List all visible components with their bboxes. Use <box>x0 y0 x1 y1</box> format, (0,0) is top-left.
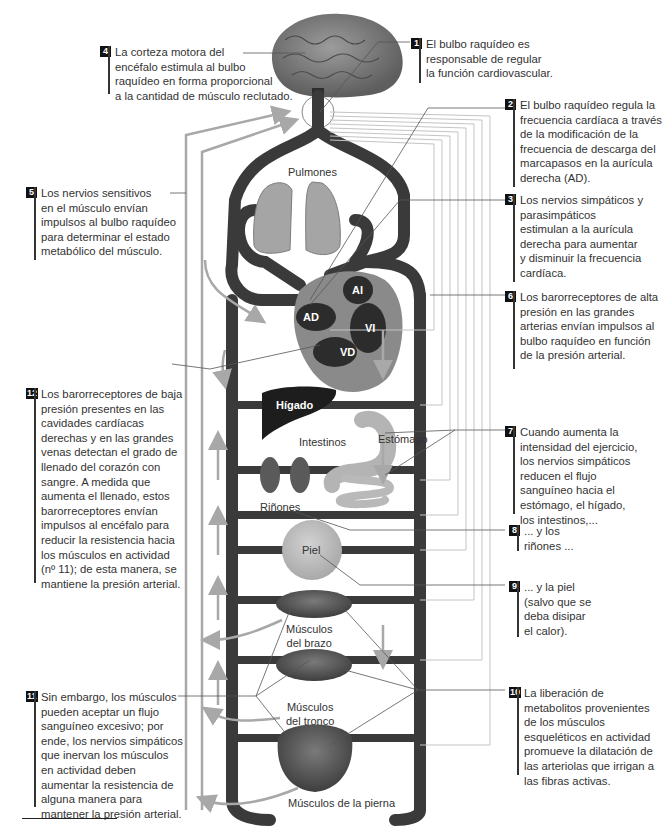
callout-text: ... y los riñones ... <box>524 524 574 553</box>
kidneys-label: Riñones <box>260 500 300 514</box>
callout-text: Los nervios simpáticos y parasimpáticos … <box>520 193 643 281</box>
callout-bar <box>517 581 519 637</box>
callout-8: 8 ... y los riñones ... <box>509 524 609 556</box>
heart-la-label: AI <box>352 284 363 296</box>
callout-3: 3 Los nervios simpáticos y parasimpático… <box>505 193 665 283</box>
callout-text: ... y la piel (salvo que se deba disipar… <box>524 580 591 638</box>
footnote-rule <box>22 818 117 819</box>
callout-12: 12 Los barorreceptores de baja presión p… <box>26 387 201 587</box>
callout-bar <box>517 525 519 551</box>
liver <box>262 387 336 440</box>
callout-bar <box>108 46 110 94</box>
callout-bar <box>513 194 515 282</box>
callout-badge: 12 <box>26 388 38 399</box>
callout-bar <box>419 38 421 83</box>
leg-muscle <box>278 725 353 793</box>
stomach <box>332 419 388 485</box>
callout-badge: 10 <box>509 687 521 698</box>
callout-4: 4 La corteza motora del encéfalo estimul… <box>100 45 300 105</box>
callout-11: 11 Sin embargo, los músculos pueden acep… <box>26 690 196 810</box>
trunk-muscle <box>276 649 352 681</box>
callout-text: La corteza motora del encéfalo estimula … <box>115 45 293 103</box>
liver-label: Hígado <box>276 398 313 412</box>
callout-10: 10 La liberación de metabolitos provenie… <box>509 686 670 796</box>
kidneys <box>260 457 310 493</box>
trunk-muscles-label: Músculos del tronco <box>286 700 334 728</box>
intestines-label: Intestinos <box>299 435 346 449</box>
callout-1: 1 El bulbo raquídeo es responsable de re… <box>411 37 591 85</box>
callout-bar <box>513 291 515 369</box>
callout-5: 5 Los nervios sensitivos en el músculo e… <box>26 186 186 261</box>
arm-muscles-label: Músculos del brazo <box>286 622 332 650</box>
heart-lv-label: VI <box>365 322 375 334</box>
callout-7: 7 Cuando aumenta la intensidad del ejerc… <box>505 425 670 535</box>
heart <box>294 271 403 392</box>
callout-text: El bulbo raquídeo regula la frecuencia c… <box>520 98 662 186</box>
skin-label: Piel <box>302 543 320 557</box>
callout-bar <box>34 388 36 583</box>
lungs <box>254 182 341 255</box>
callout-bar <box>517 687 519 775</box>
callout-9: 9 ... y la piel (salvo que se deba disip… <box>509 580 619 642</box>
callout-text: El bulbo raquídeo es responsable de regu… <box>426 37 553 81</box>
arm-muscle <box>276 590 352 618</box>
stomach-label: Estómago <box>378 432 428 446</box>
callout-text: Los nervios sensitivos en el músculo env… <box>41 186 176 259</box>
lungs-label: Pulmones <box>288 165 337 179</box>
callout-text: Sin embargo, los músculos pueden aceptar… <box>41 690 183 821</box>
leg-muscles-label: Músculos de la pierna <box>288 796 395 810</box>
heart-ra-label: AD <box>303 311 319 323</box>
callout-bar <box>34 691 36 807</box>
callout-2: 2 El bulbo raquídeo regula la frecuencia… <box>505 98 670 193</box>
callout-bar <box>34 187 36 260</box>
callout-text: La liberación de metabolitos proveniente… <box>524 686 654 788</box>
heart-rv-label: VD <box>340 346 355 358</box>
callout-text: Los barorreceptores de baja presión pres… <box>41 387 182 591</box>
callout-text: Cuando aumenta la intensidad del ejercic… <box>520 425 637 527</box>
intestines <box>340 478 390 504</box>
callout-bar <box>513 426 515 514</box>
callout-text: Los barorreceptores de alta presión en l… <box>520 290 658 363</box>
callout-6: 6 Los barorreceptores de alta presión en… <box>505 290 670 370</box>
callout-bar <box>513 99 515 187</box>
